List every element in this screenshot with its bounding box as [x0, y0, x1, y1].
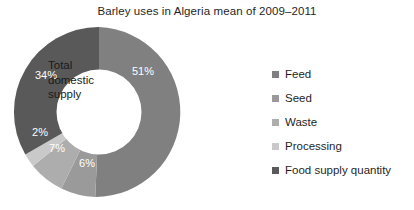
legend-swatch-icon — [272, 119, 279, 126]
slice-label-seed: 6% — [79, 157, 95, 169]
slice-label-processing: 2% — [32, 126, 48, 138]
donut-chart-figure: Barley uses in Algeria mean of 2009–2011… — [0, 0, 414, 210]
legend-swatch-icon — [272, 167, 279, 174]
legend-swatch-icon — [272, 143, 279, 150]
legend-label: Waste — [285, 116, 317, 128]
legend-item-processing[interactable]: Processing — [272, 134, 412, 158]
center-label-line-2: domestic — [48, 73, 122, 88]
legend-item-seed[interactable]: Seed — [272, 86, 412, 110]
legend-swatch-icon — [272, 95, 279, 102]
center-label-line-3: supply — [48, 87, 122, 102]
legend-label: Food supply quantity — [285, 164, 391, 176]
donut-center-label: Total domestic supply — [48, 58, 122, 102]
donut-chart-plot-area: 51% 6% 7% 2% 34% — [14, 27, 184, 197]
legend-swatch-icon — [272, 71, 279, 78]
legend-label: Feed — [285, 68, 311, 80]
legend-item-waste[interactable]: Waste — [272, 110, 412, 134]
legend-label: Processing — [285, 140, 342, 152]
slice-label-feed: 51% — [132, 65, 154, 77]
donut-svg: 51% 6% 7% 2% 34% — [14, 27, 184, 197]
legend-label: Seed — [285, 92, 312, 104]
slice-label-waste: 7% — [49, 142, 65, 154]
chart-legend: Feed Seed Waste Processing Food supply q… — [272, 62, 412, 182]
legend-item-food-supply-quantity[interactable]: Food supply quantity — [272, 158, 412, 182]
center-label-line-1: Total — [48, 58, 122, 73]
legend-item-feed[interactable]: Feed — [272, 62, 412, 86]
chart-title: Barley uses in Algeria mean of 2009–2011 — [0, 5, 414, 17]
